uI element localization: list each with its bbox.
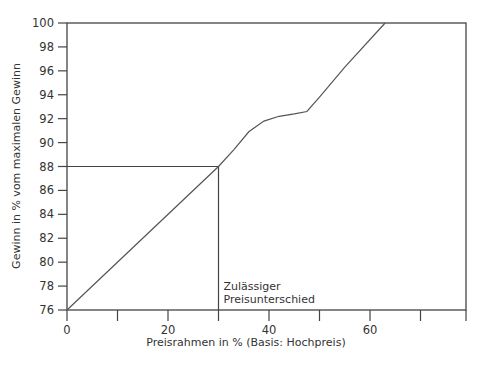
annotation-line2: Preisunterschied <box>224 293 315 306</box>
y-axis: 767880828486889092949698100 <box>32 16 67 317</box>
y-tick-label: 88 <box>39 160 54 174</box>
x-tick-label: 20 <box>161 323 176 337</box>
x-axis: 0204060 <box>63 310 466 337</box>
y-tick-label: 80 <box>39 255 54 269</box>
x-tick-label: 0 <box>63 323 70 337</box>
y-tick-label: 90 <box>39 136 54 150</box>
profit-chart: 767880828486889092949698100 0204060 Zulä… <box>0 0 482 368</box>
y-tick-label: 94 <box>39 88 54 102</box>
x-axis-label: Preisrahmen in % (Basis: Hochpreis) <box>146 336 345 349</box>
x-tick-label: 40 <box>262 323 277 337</box>
y-tick-label: 78 <box>39 279 54 293</box>
y-tick-label: 96 <box>39 64 54 78</box>
y-tick-label: 82 <box>39 231 54 245</box>
y-tick-label: 76 <box>39 303 54 317</box>
y-axis-label: Gewinn in % vom maximalen Gewinn <box>10 63 23 269</box>
y-tick-label: 98 <box>39 40 54 54</box>
y-tick-label: 92 <box>39 112 54 126</box>
x-tick-label: 60 <box>363 323 378 337</box>
y-tick-label: 100 <box>32 16 54 30</box>
annotation-line1: Zulässiger <box>224 280 282 293</box>
y-tick-label: 86 <box>39 183 54 197</box>
y-tick-label: 84 <box>39 207 54 221</box>
